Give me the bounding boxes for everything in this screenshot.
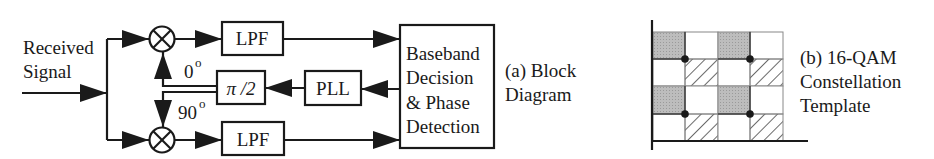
svg-text:o: o [199,96,206,111]
caption-a-line-1: (a) Block [505,60,576,82]
constellation-template [652,20,808,150]
pll-label: PLL [316,78,350,99]
phase-shifter-label: π /2 [226,78,256,99]
decision-line-2: Decision [406,67,474,88]
svg-text:o: o [195,55,202,70]
constellation-point [746,110,754,118]
caption-b-line-1: (b) 16-QAM [800,47,901,69]
caption-b-line-3: Template [800,95,901,117]
constellation-point [681,55,689,63]
input-arrow [80,84,107,102]
caption-a-line-2: Diagram [505,84,576,106]
caption-b-line-2: Constellation [800,71,901,93]
decision-line-1: Baseband [406,43,480,64]
input-label-line-1: Received [23,37,94,59]
constellation-point [746,55,754,63]
input-label-line-2: Signal [23,61,94,83]
decision-line-3: & Phase [406,92,470,113]
decision-line-4: Detection [406,116,480,137]
bottom-lpf-label: LPF [237,129,270,150]
phase-90-label: 90 [178,102,197,123]
top-lpf-label: LPF [236,28,269,49]
block-diagram-caption: (a) Block Diagram [505,60,576,106]
phase-0-label: 0 [184,61,194,82]
constellation-caption: (b) 16-QAM Constellation Template [800,47,901,117]
input-label: Received Signal [23,37,94,83]
constellation-point [681,110,689,118]
block-diagram: LPF LPF π /2 PLL Baseband Decision & Pha… [0,0,934,159]
